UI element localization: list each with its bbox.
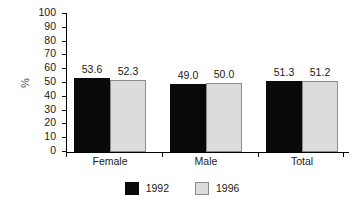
x-axis-tick — [66, 153, 67, 157]
legend-item[interactable]: 1996 — [195, 182, 239, 195]
y-axis-tick: 50 — [62, 82, 67, 83]
y-axis-tick: 30 — [62, 110, 67, 111]
bar-value-label: 53.6 — [82, 63, 102, 75]
y-axis-tick-label: 60 — [26, 61, 56, 74]
bar-value-label: 51.2 — [310, 66, 330, 78]
x-axis-tick — [343, 153, 344, 157]
y-axis-tick: 90 — [62, 27, 67, 28]
x-axis-line — [66, 152, 349, 153]
x-axis-tick — [162, 153, 163, 157]
y-axis-tick: 10 — [62, 137, 67, 138]
legend-swatch-icon — [125, 182, 139, 195]
bar-value-label: 51.3 — [274, 66, 294, 78]
y-axis-tick: 70 — [62, 54, 67, 55]
x-axis-category-label: Total — [291, 155, 313, 168]
y-axis-tick-label: 20 — [26, 116, 56, 129]
y-axis-tick: 0 — [62, 151, 67, 152]
x-axis-category-label: Female — [92, 155, 127, 168]
bar: 52.3 — [110, 80, 146, 152]
bar: 51.3 — [266, 81, 302, 152]
y-axis-tick-label: 70 — [26, 47, 56, 60]
plot-area: 0102030405060708090100 53.652.349.050.05… — [66, 14, 349, 152]
bar: 51.2 — [302, 81, 338, 152]
bar-value-label: 52.3 — [118, 65, 138, 77]
y-axis-tick-label: 30 — [26, 103, 56, 116]
y-axis-tick-label: 0 — [26, 144, 56, 157]
y-axis-line — [66, 14, 67, 153]
bar-value-label: 50.0 — [214, 68, 234, 80]
legend-swatch-icon — [195, 182, 209, 195]
y-axis-tick-label: 40 — [26, 89, 56, 102]
y-axis-tick: 100 — [62, 13, 67, 14]
bar: 49.0 — [170, 84, 206, 152]
y-axis-tick: 40 — [62, 96, 67, 97]
y-axis-tick-label: 10 — [26, 130, 56, 143]
y-axis-tick-label: 50 — [26, 75, 56, 88]
x-axis-category-label: Male — [195, 155, 218, 168]
legend-label: 1992 — [146, 182, 169, 195]
bar-value-label: 49.0 — [178, 69, 198, 81]
legend-item[interactable]: 1992 — [125, 182, 169, 195]
y-axis-tick: 60 — [62, 68, 67, 69]
bar-chart: % 0102030405060708090100 53.652.349.050.… — [0, 0, 364, 204]
bar: 53.6 — [74, 78, 110, 152]
y-axis-tick-label: 80 — [26, 34, 56, 47]
chart-legend: 19921996 — [0, 182, 364, 195]
y-axis-tick-label: 90 — [26, 20, 56, 33]
x-axis-tick — [258, 153, 259, 157]
y-axis-tick: 20 — [62, 123, 67, 124]
y-axis-tick-label: 100 — [26, 6, 56, 19]
y-axis-tick: 80 — [62, 41, 67, 42]
bar: 50.0 — [206, 83, 242, 152]
legend-label: 1996 — [216, 182, 239, 195]
